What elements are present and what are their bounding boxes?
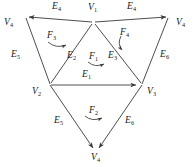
edge-label-e5-lower-left: E5	[54, 116, 63, 126]
edge-label-e1-middle: E1	[82, 70, 91, 80]
vertex-label-v4-left: V4	[4, 18, 13, 28]
edge-line-e4-top-left	[29, 17, 92, 22]
edge-line-e5-outer-left	[26, 18, 50, 84]
vertex-label-v4-right: V4	[176, 18, 185, 28]
face-label-f2-bottom: F2	[89, 106, 98, 116]
edge-label-e3-inner-right: E3	[108, 51, 117, 61]
edge-line-e6-lower-right	[99, 85, 142, 148]
face-arrow-f4	[119, 36, 122, 50]
face-label-f4-upper-right: F4	[120, 28, 129, 38]
edge-label-e4-top-left: E4	[52, 2, 61, 12]
face-arrow-f2	[85, 116, 102, 120]
vertex-label-v1-top: V1	[88, 3, 97, 13]
face-label-f1-center: F1	[89, 52, 98, 62]
vertex-label-v4-bottom: V4	[91, 153, 100, 163]
triangular-net-figure: V4 V1 V4 V2 V3 V4 E4 E4 E5 E6 E2 E3 E1 E…	[0, 0, 194, 167]
face-arrow-f3	[48, 42, 66, 46]
face-label-f3-upper-left: F3	[47, 31, 56, 41]
edge-label-e6-lower-right: E6	[125, 116, 134, 126]
figure-canvas	[0, 0, 194, 167]
edge-label-e4-top-right: E4	[127, 2, 136, 12]
edge-line-e4-top-right	[95, 17, 166, 22]
vertex-label-v3-mid: V3	[147, 87, 156, 97]
edge-label-e2-inner-left: E2	[67, 51, 76, 61]
edge-label-e5-outer-left: E5	[11, 50, 20, 60]
edge-line-e3-inner-right	[95, 24, 141, 83]
edge-label-e6-outer-right: E6	[160, 50, 169, 60]
face-arrow-f1	[88, 62, 104, 66]
vertex-label-v2-mid: V2	[32, 87, 41, 97]
